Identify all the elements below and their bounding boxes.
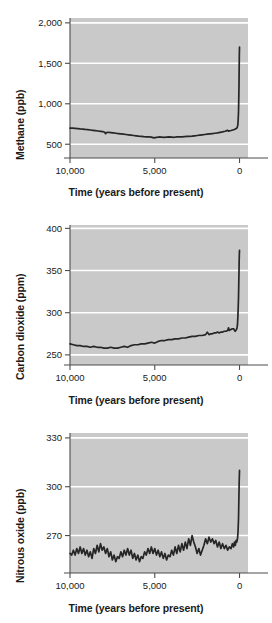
y-tick-label: 300 xyxy=(46,481,62,492)
y-tick-label: 400 xyxy=(46,223,62,234)
plot-methane: 5001,0001,5002,00010,0005,0000 xyxy=(0,0,272,180)
x-tick-label: 5,000 xyxy=(143,165,167,176)
greenhouse-gas-figure: Methane (ppb) 5001,0001,5002,00010,0005,… xyxy=(0,0,272,623)
plot-background xyxy=(70,225,248,365)
chart-panel-carbon-dioxide: Carbon dioxide (ppm) 25030035040010,0005… xyxy=(0,205,272,413)
y-axis-label-methane: Methane (ppb) xyxy=(14,90,26,160)
y-tick-label: 2,000 xyxy=(38,17,62,28)
y-tick-label: 1,500 xyxy=(38,58,62,69)
x-tick-label: 10,000 xyxy=(55,372,84,383)
x-tick-label: 5,000 xyxy=(143,372,167,383)
y-axis-label-nitrous-oxide: Nitrous oxide (ppb) xyxy=(14,489,26,583)
y-tick-label: 500 xyxy=(46,139,62,150)
x-tick-label: 5,000 xyxy=(143,580,167,591)
y-axis-label-carbon-dioxide: Carbon dioxide (ppm) xyxy=(14,274,26,381)
x-axis-label-carbon-dioxide: Time (years before present) xyxy=(0,394,272,406)
x-axis-label-methane: Time (years before present) xyxy=(0,186,272,198)
x-axis-label-nitrous-oxide: Time (years before present) xyxy=(0,602,272,614)
y-tick-label: 300 xyxy=(46,307,62,318)
y-tick-label: 350 xyxy=(46,265,62,276)
x-tick-label: 0 xyxy=(237,372,242,383)
x-tick-label: 10,000 xyxy=(55,165,84,176)
y-tick-label: 1,000 xyxy=(38,98,62,109)
x-tick-label: 0 xyxy=(237,165,242,176)
y-tick-label: 330 xyxy=(46,432,62,443)
chart-panel-methane: Methane (ppb) 5001,0001,5002,00010,0005,… xyxy=(0,0,272,205)
chart-panel-nitrous-oxide: Nitrous oxide (ppb) 27030033010,0005,000… xyxy=(0,413,272,623)
x-tick-label: 0 xyxy=(237,580,242,591)
x-tick-label: 10,000 xyxy=(55,580,84,591)
y-tick-label: 270 xyxy=(46,530,62,541)
y-tick-label: 250 xyxy=(46,349,62,360)
plot-carbon-dioxide: 25030035040010,0005,0000 xyxy=(0,205,272,387)
plot-nitrous-oxide: 27030033010,0005,0000 xyxy=(0,413,272,595)
